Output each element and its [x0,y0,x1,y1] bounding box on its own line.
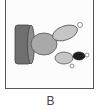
lower-ellipse-shape [55,52,73,64]
lower-loop-icon [70,64,74,68]
upper-loop-icon [78,23,83,28]
dark-ellipse-shape [73,52,85,60]
panel-label: B [0,94,101,108]
dark-loop-icon [85,53,89,57]
